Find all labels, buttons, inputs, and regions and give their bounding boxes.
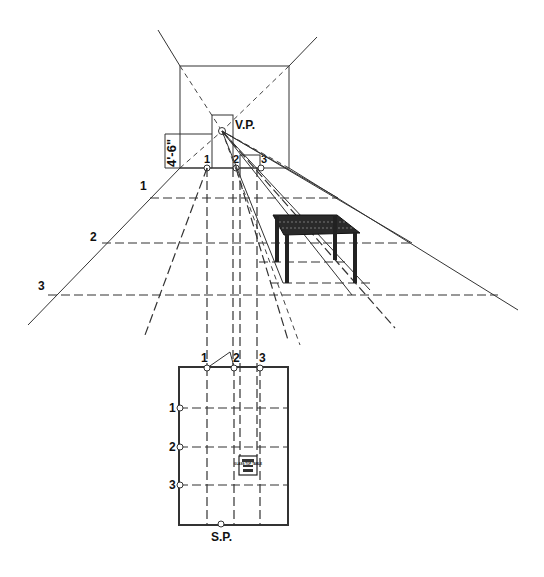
table-leg-back-left (275, 215, 279, 262)
table-leg-back-right (333, 215, 337, 260)
diagonal-tl (180, 66, 222, 131)
plan-wall-point-1 (204, 365, 210, 371)
plan-depth-point-2-label: 2 (169, 440, 176, 454)
plan-wall-point-2 (231, 365, 237, 371)
depth-line-3-label: 3 (38, 279, 45, 293)
table-top (273, 215, 360, 235)
plan-wall-point-3 (257, 365, 263, 371)
projection-lines (145, 131, 412, 456)
height-dimension-label: 4'-6" (164, 139, 179, 167)
ceiling-edge-left (158, 30, 180, 66)
ceiling-edge-right (289, 37, 317, 66)
sightline-d (222, 131, 370, 290)
plan-wall-point-1-label: 1 (201, 351, 208, 365)
depth-line-1-label: 1 (140, 179, 147, 193)
plan-depth-point-1 (177, 405, 183, 411)
depth-lines: 1 2 3 (38, 179, 498, 295)
plan-depth-point-1-label: 1 (169, 401, 176, 415)
table-leg-front-left (285, 235, 289, 283)
plan-depth-point-3-label: 3 (169, 478, 176, 492)
perspective-diagram: 4'-6" V.P. 1 2 3 1 2 3 (0, 0, 544, 577)
plan-depth-point-3 (177, 482, 183, 488)
plan-wall-point-2-label: 2 (233, 351, 240, 365)
table-leg-front-right (353, 233, 357, 283)
station-point-marker (218, 521, 224, 527)
sightline-1 (145, 168, 207, 335)
plan-depth-point-2 (177, 444, 183, 450)
depth-line-2-label: 2 (90, 230, 97, 244)
wall-point-2-label: 2 (233, 153, 239, 165)
sightline-g (222, 131, 283, 283)
station-point-label: S.P. (211, 530, 232, 544)
floor-plan: 1 2 3 1 2 3 GLASS TOP TABLE S.P. (169, 351, 288, 544)
room-elevation: 4'-6" V.P. 1 2 3 (28, 30, 518, 325)
door-swing (207, 352, 234, 368)
wall-point-1-label: 1 (204, 153, 210, 165)
diagonal-tr (222, 66, 289, 131)
vanishing-point-label: V.P. (235, 118, 255, 132)
plan-wall-point-3-label: 3 (259, 351, 266, 365)
floor-edge-left (28, 168, 180, 325)
diagonal-bl (180, 131, 222, 168)
